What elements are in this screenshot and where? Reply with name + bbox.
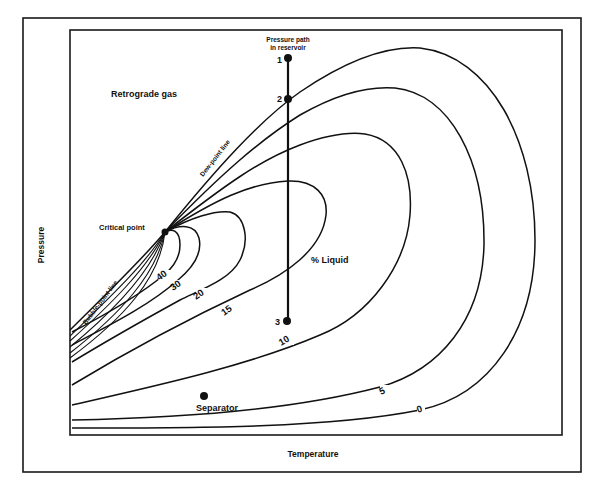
curve-20-percent [72,212,245,362]
point-2-label: 2 [277,94,282,104]
pressure-path-label-line2: in reservoir [270,44,306,51]
outer-frame [23,18,581,472]
separator-label: Separator [196,403,239,413]
y-axis-label: Pressure [36,227,46,264]
percent-liquid-label: % Liquid [311,255,349,265]
pressure-point-2 [284,95,292,103]
pressure-point-1 [284,54,292,62]
critical-point-label: Critical point [99,223,145,232]
bubble-point-line-label: Bubble-point line [81,279,120,327]
curve-10-percent [72,133,410,405]
bubble-point-line [70,232,165,330]
pressure-path-label-line1: Pressure path [266,36,309,44]
point-3-label: 3 [275,317,280,327]
separator-dot [200,392,208,400]
critical-point-dot [162,229,169,236]
curve-5-percent [72,88,484,420]
retrograde-gas-label: Retrograde gas [111,89,177,99]
point-1-label: 1 [277,55,282,65]
pressure-point-3 [283,317,291,325]
quality-curves [72,48,535,428]
curve-0-percent [72,48,535,428]
phase-diagram: 1 2 3 Pressure path in reservoir Critica… [0,0,594,486]
x-axis-label: Temperature [288,449,339,459]
contour-labels: 40 30 20 15 10 5 0 [154,268,425,415]
